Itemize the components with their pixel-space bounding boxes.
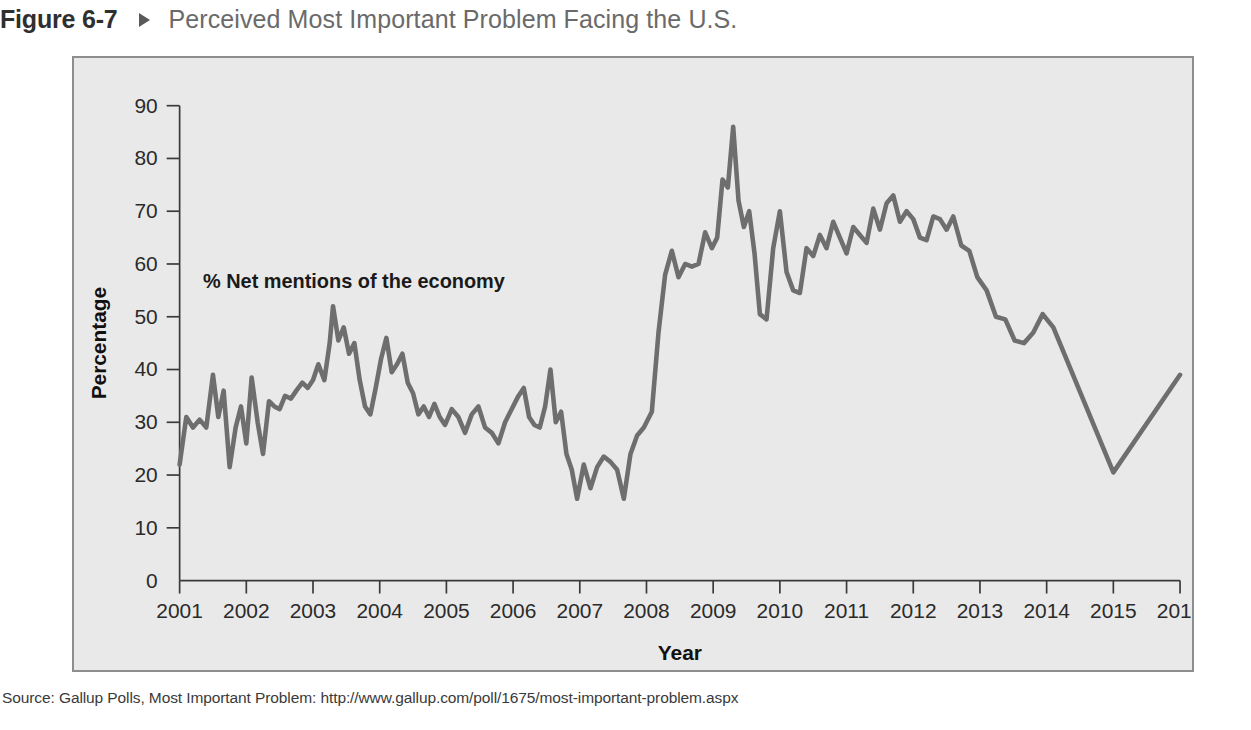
y-tick-label: 40: [134, 358, 157, 381]
x-tick-label: 2012: [890, 599, 937, 622]
series-line-net-mentions-economy: [180, 127, 1180, 499]
triangle-right-icon: [139, 13, 150, 27]
x-tick-label: 2008: [623, 599, 670, 622]
series-annotation: % Net mentions of the economy: [203, 270, 505, 292]
chart-panel: 0102030405060708090 20012002200320042005…: [72, 56, 1194, 672]
x-tick-label: 2006: [490, 599, 537, 622]
y-tick-label: 60: [134, 252, 157, 275]
x-tick-label: 2016: [1157, 599, 1192, 622]
y-axis-title: Percentage: [87, 287, 110, 399]
x-tick-label: 2014: [1023, 599, 1070, 622]
y-tick-label: 20: [134, 463, 157, 486]
y-tick-label: 10: [134, 516, 157, 539]
y-tick-label: 30: [134, 410, 157, 433]
x-tick-label: 2013: [957, 599, 1004, 622]
x-tick-label: 2003: [290, 599, 337, 622]
y-tick-label: 90: [134, 94, 157, 117]
source-note: Source: Gallup Polls, Most Important Pro…: [2, 689, 738, 707]
y-tick-label: 70: [134, 199, 157, 222]
x-axis-title: Year: [658, 641, 702, 664]
line-chart: 0102030405060708090 20012002200320042005…: [74, 58, 1192, 670]
x-tick-label: 2005: [423, 599, 470, 622]
y-axis: 0102030405060708090: [134, 94, 179, 592]
figure-caption: Figure 6-7 Perceived Most Important Prob…: [0, 2, 1251, 36]
x-tick-label: 2011: [824, 599, 869, 622]
figure-number: Figure 6-7: [0, 5, 117, 34]
y-tick-label: 50: [134, 305, 157, 328]
x-tick-label: 2010: [757, 599, 804, 622]
y-tick-label: 80: [134, 146, 157, 169]
y-tick-label: 0: [146, 569, 158, 592]
x-tick-label: 2015: [1090, 599, 1137, 622]
x-tick-label: 2009: [690, 599, 737, 622]
page-title: Perceived Most Important Problem Facing …: [168, 5, 737, 34]
x-tick-label: 2007: [557, 599, 604, 622]
x-tick-label: 2001: [156, 599, 203, 622]
x-axis: 2001200220032004200520062007200820092010…: [156, 581, 1192, 623]
x-tick-label: 2002: [223, 599, 270, 622]
x-tick-label: 2004: [356, 599, 403, 622]
